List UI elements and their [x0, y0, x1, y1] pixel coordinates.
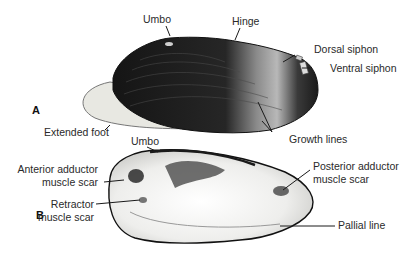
label-umbo-b: Umbo — [131, 136, 159, 147]
label-posterior-adductor-line2: muscle scar — [313, 174, 369, 185]
label-hinge: Hinge — [232, 16, 259, 27]
label-extended-foot: Extended foot — [44, 127, 109, 138]
label-ventral-siphon: Ventral siphon — [330, 63, 397, 74]
label-anterior-adductor-line1: Anterior adductor — [16, 164, 98, 175]
label-posterior-adductor-line1: Posterior adductor — [313, 161, 399, 172]
shell-exterior — [113, 37, 318, 133]
label-growth-lines: Growth lines — [289, 134, 347, 145]
label-retractor-line1: Retractor — [30, 199, 94, 210]
label-pallial-line: Pallial line — [338, 220, 385, 231]
label-anterior-adductor-line2: muscle scar — [16, 177, 98, 188]
panel-label-a: A — [32, 104, 40, 116]
label-umbo-a: Umbo — [143, 14, 171, 25]
label-retractor-line2: muscle scar — [30, 212, 94, 223]
clam-anatomy-diagram: A B Umbo Hinge Dorsal siphon Ventral sip… — [0, 0, 413, 267]
label-dorsal-siphon: Dorsal siphon — [314, 44, 378, 55]
shell-interior — [109, 150, 313, 243]
